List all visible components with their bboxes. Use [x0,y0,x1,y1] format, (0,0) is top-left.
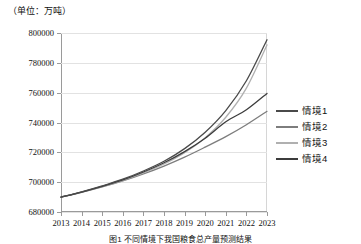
plot-area [61,33,267,212]
legend-label: 情境4 [302,154,327,164]
legend-label: 情境2 [302,122,327,132]
x-axis-tick-mark [185,212,186,216]
x-axis-tick-label: 2020 [197,218,214,228]
x-axis-tick-mark [226,212,227,216]
x-axis-tick-label: 2022 [238,218,255,228]
x-axis-tick-label: 2019 [176,218,193,228]
x-axis-tick-mark [82,212,83,216]
y-axis-tick-label: 760000 [29,88,55,98]
y-axis-tick-mark [57,123,61,124]
y-axis-tick-label: 680000 [29,207,55,217]
series-line-情境1 [61,40,267,197]
unit-label: （单位：万吨） [8,4,71,17]
x-axis-tick-mark [102,212,103,216]
y-axis-tick-label: 800000 [29,28,55,38]
legend-item[interactable]: 情境2 [276,120,327,133]
y-axis-tick-mark [57,33,61,34]
y-axis-tick-mark [57,152,61,153]
legend-swatch-line-icon [276,142,298,144]
legend-swatch-line-icon [276,126,298,128]
x-axis-tick-mark [143,212,144,216]
x-axis-tick-label: 2021 [217,218,234,228]
figure-caption: 图1 不同情境下我国粮食总产量预测结果 [0,233,361,244]
x-axis-tick-mark [267,212,268,216]
legend-item[interactable]: 情境3 [276,136,327,149]
y-axis-tick-mark [57,182,61,183]
x-axis-tick-label: 2018 [156,218,173,228]
legend-item[interactable]: 情境1 [276,104,327,117]
y-axis-tick-label: 780000 [29,58,55,68]
x-axis-tick-mark [164,212,165,216]
x-axis-tick-label: 2014 [73,218,90,228]
series-line-情境4 [61,93,267,197]
legend-label: 情境3 [302,138,327,148]
x-axis-tick-mark [205,212,206,216]
x-axis-tick-label: 2013 [53,218,70,228]
legend: 情境1情境2情境3情境4 [276,104,327,165]
x-axis-tick-label: 2015 [94,218,111,228]
series-lines [61,33,267,212]
x-axis-tick-mark [61,212,62,216]
y-axis-tick-mark [57,63,61,64]
legend-item[interactable]: 情境4 [276,152,327,165]
y-axis-tick-label: 720000 [29,147,55,157]
series-line-情境3 [61,45,267,197]
legend-swatch-line-icon [276,110,298,112]
y-axis-tick-label: 700000 [29,177,55,187]
x-axis-tick-label: 2017 [135,218,152,228]
legend-label: 情境1 [302,106,327,116]
x-axis-tick-mark [123,212,124,216]
series-line-情境2 [61,111,267,197]
y-axis-tick-mark [57,93,61,94]
x-axis-tick-label: 2016 [114,218,131,228]
x-axis-tick-label: 2023 [259,218,276,228]
y-axis-tick-label: 740000 [29,118,55,128]
x-axis-tick-mark [246,212,247,216]
legend-swatch-line-icon [276,158,298,160]
